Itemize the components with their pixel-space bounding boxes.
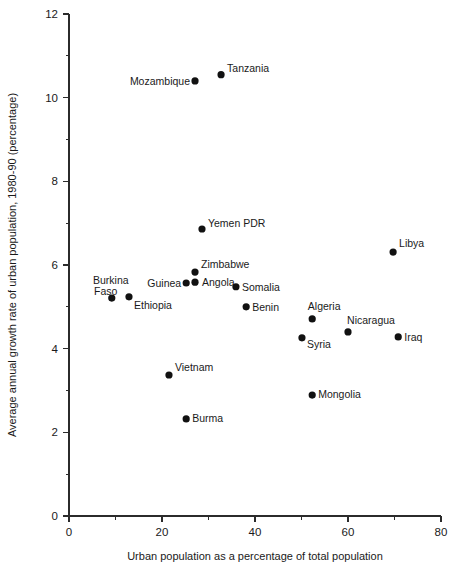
data-point-label: Mozambique (130, 75, 190, 87)
data-point (191, 279, 198, 286)
data-point-label: Syria (307, 338, 331, 350)
data-point (183, 415, 190, 422)
data-point-label: Faso (94, 285, 118, 297)
axes-group (69, 14, 441, 516)
data-points-group: MozambiqueTanzaniaYemen PDRLibyaZimbabwe… (93, 62, 424, 424)
x-tick-label: 60 (342, 526, 355, 538)
data-point-label: Zimbabwe (201, 258, 250, 270)
data-point-label: Libya (399, 237, 424, 249)
data-point-label: Benin (252, 301, 279, 313)
data-point (125, 293, 132, 300)
data-point-label: Nicaragua (347, 314, 395, 326)
data-point-label: Iraq (404, 331, 422, 343)
tick-labels-group: 024681012020406080 (45, 8, 447, 538)
data-point-label: Guinea (147, 277, 181, 289)
x-tick-label: 0 (66, 526, 72, 538)
data-point (217, 71, 224, 78)
y-tick-label: 10 (45, 92, 58, 104)
x-axis-title: Urban population as a percentage of tota… (127, 550, 383, 562)
data-point-label: Mongolia (318, 388, 361, 400)
data-point-label: Angola (202, 276, 235, 288)
data-point-label: Burma (192, 412, 223, 424)
data-point (395, 333, 402, 340)
data-point (309, 392, 316, 399)
scatter-chart: 024681012020406080 MozambiqueTanzaniaYem… (0, 0, 460, 572)
data-point-label: Ethiopia (134, 299, 172, 311)
y-tick-label: 2 (52, 426, 58, 438)
data-point-label: Somalia (242, 281, 280, 293)
data-point (390, 248, 397, 255)
y-tick-label: 8 (52, 175, 58, 187)
data-point (298, 334, 305, 341)
data-point (165, 371, 172, 378)
data-point-label: Vietnam (175, 361, 214, 373)
ticks-group (63, 14, 441, 522)
data-point-label: Tanzania (227, 62, 269, 74)
x-tick-label: 80 (435, 526, 448, 538)
x-tick-label: 20 (156, 526, 169, 538)
y-axis-title: Average annual growth rate of urban popu… (6, 93, 18, 437)
data-point (191, 269, 198, 276)
y-tick-label: 6 (52, 259, 58, 271)
data-point (344, 328, 351, 335)
y-tick-label: 4 (52, 343, 59, 355)
data-point (243, 303, 250, 310)
data-point (198, 225, 205, 232)
data-point-label: Algeria (308, 300, 341, 312)
data-point (183, 279, 190, 286)
data-point-label: Yemen PDR (208, 217, 266, 229)
data-point (191, 77, 198, 84)
data-point (309, 315, 316, 322)
scatter-plot-canvas: 024681012020406080 MozambiqueTanzaniaYem… (0, 0, 460, 572)
y-tick-label: 0 (52, 510, 58, 522)
y-tick-label: 12 (45, 8, 58, 20)
data-point (232, 283, 239, 290)
x-tick-label: 40 (249, 526, 262, 538)
